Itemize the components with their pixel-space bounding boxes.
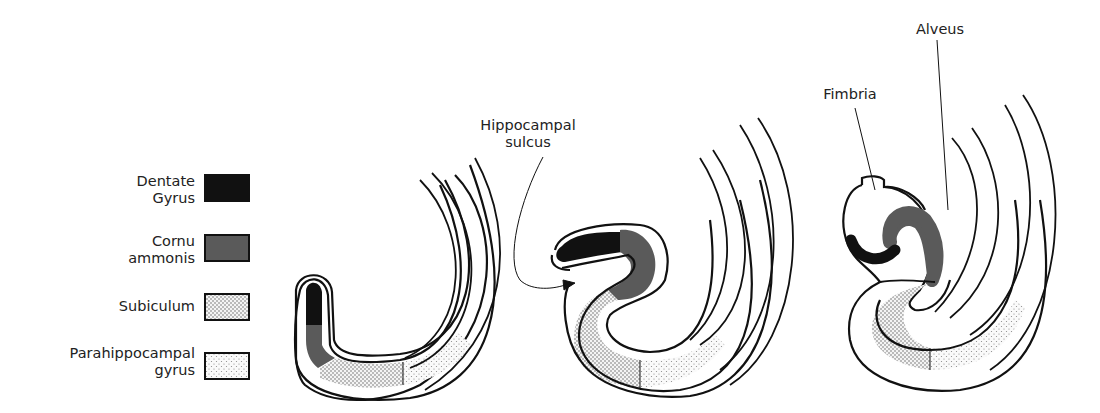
parahippocampal-pattern	[206, 354, 248, 378]
stage-1-diagram	[295, 158, 500, 400]
subiculum-pattern	[206, 295, 248, 319]
stage-3-diagram	[843, 40, 1055, 391]
hippocampus-diagram	[0, 0, 1100, 413]
stage-2-diagram	[514, 118, 793, 397]
